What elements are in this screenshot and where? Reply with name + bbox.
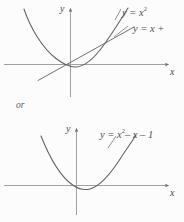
- top-parabola-exponent: 2: [144, 5, 147, 12]
- bottom-parabola-equation-label: y = x2– x – 1: [100, 128, 153, 140]
- top-y-axis-label: y: [60, 4, 64, 14]
- bottom-equation-lead: y = x: [100, 129, 122, 140]
- top-line-equation-label: y = x +: [133, 24, 164, 35]
- math-figure: y x y = x2 y = x + or y x y = x2– x – 1: [0, 0, 184, 222]
- bottom-x-axis-label: x: [170, 188, 174, 198]
- bottom-graph: [4, 130, 167, 215]
- top-line-curve: [38, 27, 134, 81]
- top-x-axis-label: x: [170, 67, 174, 77]
- top-parabola-curve: [24, 8, 128, 67]
- bottom-parabola-curve: [41, 135, 136, 190]
- separator-or: or: [16, 101, 24, 111]
- bottom-equation-tail: – x – 1: [125, 129, 153, 140]
- bottom-y-axis-label: y: [66, 124, 70, 134]
- top-graph: [4, 8, 167, 97]
- top-parabola-equation-label: y = x2: [122, 6, 147, 18]
- top-parabola-leader: [115, 9, 121, 20]
- top-parabola-equation-text: y = x: [122, 7, 144, 18]
